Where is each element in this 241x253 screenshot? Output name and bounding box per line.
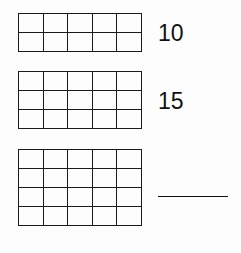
grid-4x5 [18, 149, 142, 226]
answer-blank-line[interactable] [158, 196, 228, 197]
grid-3x5 [18, 71, 142, 129]
grid-2x5 [18, 13, 142, 52]
answer-2: 15 [158, 90, 184, 113]
answer-1: 10 [158, 22, 184, 45]
